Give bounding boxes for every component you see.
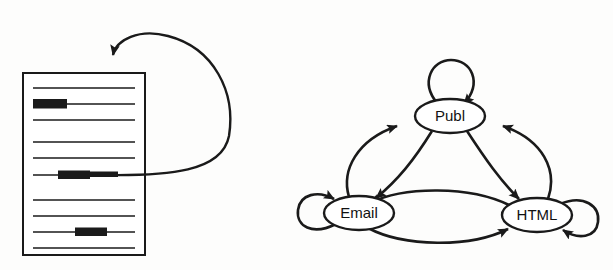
figure-root: Publ Email HTML: [0, 0, 613, 270]
highlight-segment-2: [58, 171, 90, 180]
state-diagram: Publ Email HTML: [298, 60, 598, 243]
edge-email-to-html: [368, 228, 508, 243]
node-publ-label: Publ: [435, 107, 465, 124]
document-panel: [23, 33, 230, 255]
edge-publ-to-html: [467, 131, 519, 199]
node-email[interactable]: Email: [324, 196, 394, 230]
publ-self-loop: [429, 60, 474, 104]
node-email-label: Email: [340, 204, 378, 221]
edge-html-to-email: [370, 190, 509, 205]
node-html-label: HTML: [517, 206, 558, 223]
figure-canvas: Publ Email HTML: [0, 0, 613, 270]
node-html[interactable]: HTML: [502, 198, 572, 232]
node-publ[interactable]: Publ: [415, 99, 485, 133]
highlight-segment-1: [33, 99, 67, 109]
highlight-segment-3: [75, 228, 107, 237]
edge-publ-to-email: [376, 131, 432, 198]
